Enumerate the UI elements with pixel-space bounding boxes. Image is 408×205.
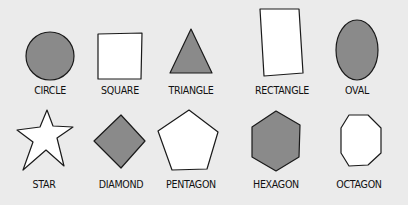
octagon-label: OCTAGON	[319, 177, 399, 190]
rectangle-label: RECTANGLE	[242, 83, 322, 96]
triangle-shape	[170, 29, 212, 73]
pentagon-label: PENTAGON	[151, 177, 231, 190]
diamond-shape	[94, 115, 145, 168]
circle-shape	[26, 32, 74, 80]
shapes-canvas	[0, 0, 408, 205]
star-label: STAR	[4, 177, 84, 190]
square-label: SQUARE	[80, 83, 160, 96]
oval-label: OVAL	[317, 83, 397, 96]
star-shape	[17, 110, 73, 170]
pentagon-shape	[158, 110, 218, 170]
circle-label: CIRCLE	[10, 83, 90, 96]
hexagon-label: HEXAGON	[236, 177, 316, 190]
square-shape	[98, 33, 142, 79]
hexagon-shape	[252, 111, 300, 171]
diamond-label: DIAMOND	[81, 177, 161, 190]
oval-shape	[336, 20, 378, 80]
rectangle-shape	[260, 9, 303, 76]
octagon-shape	[341, 115, 381, 166]
triangle-label: TRIANGLE	[151, 83, 231, 96]
